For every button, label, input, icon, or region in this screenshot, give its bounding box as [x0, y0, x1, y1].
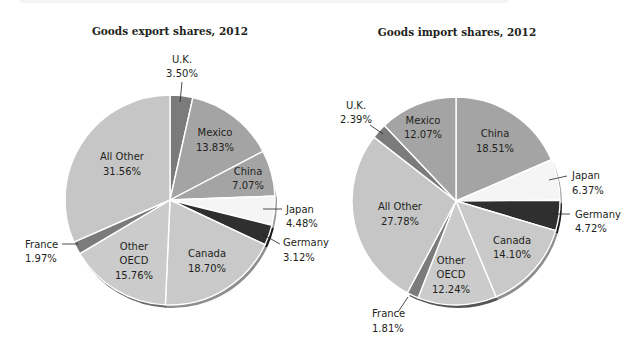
import-label-france: France: [372, 308, 405, 319]
import-label-japan: Japan: [571, 170, 600, 181]
export-label-other-oecd-2: OECD: [120, 255, 149, 266]
pie-charts: Goods export shares, 2012 U.K. 3.50% Mex…: [0, 0, 640, 353]
export-label-all-other: All Other: [100, 151, 145, 162]
export-label-uk: U.K.: [172, 54, 192, 65]
export-value-mexico: 13.83%: [196, 142, 234, 153]
export-value-germany: 3.12%: [283, 252, 315, 263]
import-label-other-oecd-2: OECD: [437, 269, 466, 280]
export-value-china: 7.07%: [232, 180, 264, 191]
import-value-france: 1.81%: [372, 323, 404, 334]
import-pie: Goods import shares, 2012 China 18.51% J…: [340, 26, 621, 334]
export-label-other-oecd-1: Other: [120, 241, 149, 252]
import-label-uk: U.K.: [346, 100, 366, 111]
export-label-japan: Japan: [285, 204, 314, 215]
import-label-all-other: All Other: [378, 201, 423, 212]
import-value-germany: 4.72%: [575, 223, 607, 234]
export-value-uk: 3.50%: [166, 68, 198, 79]
export-value-japan: 4.48%: [286, 218, 318, 229]
export-value-all-other: 31.56%: [103, 166, 141, 177]
import-value-other-oecd: 12.24%: [432, 284, 470, 295]
import-value-all-other: 27.78%: [381, 216, 419, 227]
export-label-france: France: [25, 239, 58, 250]
export-chart-title: Goods export shares, 2012: [92, 25, 248, 37]
import-value-uk: 2.39%: [340, 114, 372, 125]
export-value-other-oecd: 15.76%: [115, 270, 153, 281]
import-value-china: 18.51%: [476, 143, 514, 154]
import-label-canada: Canada: [493, 235, 531, 246]
import-label-other-oecd-1: Other: [437, 255, 466, 266]
import-value-canada: 14.10%: [493, 249, 531, 260]
export-label-china: China: [234, 166, 263, 177]
import-chart-title: Goods import shares, 2012: [378, 26, 536, 38]
import-label-mexico: Mexico: [406, 115, 441, 126]
export-label-mexico: Mexico: [198, 127, 233, 138]
export-label-germany: Germany: [283, 237, 329, 248]
import-value-mexico: 12.07%: [404, 129, 442, 140]
import-value-japan: 6.37%: [572, 185, 604, 196]
import-label-china: China: [481, 128, 510, 139]
export-value-france: 1.97%: [25, 253, 57, 264]
export-label-canada: Canada: [188, 248, 226, 259]
export-pie: Goods export shares, 2012 U.K. 3.50% Mex…: [25, 25, 329, 308]
import-label-germany: Germany: [575, 209, 621, 220]
export-value-canada: 18.70%: [188, 263, 226, 274]
